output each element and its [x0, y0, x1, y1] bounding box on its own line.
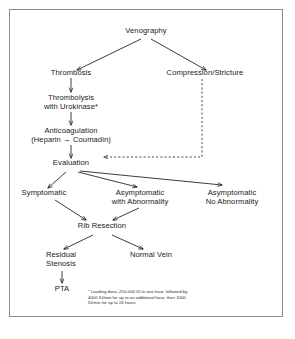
node-compression-stricture: Compression/Stricture	[167, 69, 244, 78]
node-asymptomatic-no-abnormality: Asymptomatic No Abnormality	[206, 189, 259, 206]
node-thrombosis: Thrombosis	[51, 69, 91, 78]
diagram-page: Venography Thrombosis Compression/Strict…	[0, 0, 295, 339]
node-rib-resection: Rib Resection	[78, 222, 126, 231]
diagram-frame	[9, 9, 283, 317]
node-residual-stenosis: Residual Stenosis	[46, 251, 76, 268]
node-thrombolysis: Thrombolysis with Urokinase*	[44, 94, 98, 111]
footnote-urokinase-dosing: * Loading dose–250,000 IU in one hour, f…	[88, 289, 238, 306]
node-normal-vein: Normal Vein	[130, 251, 172, 260]
node-evaluation: Evaluation	[53, 159, 89, 168]
node-pta: PTA	[55, 285, 69, 294]
node-symptomatic: Symptomatic	[22, 189, 67, 198]
node-venography: Venography	[125, 27, 166, 36]
node-anticoagulation: Anticoagulation (Heparin → Coumadin)	[31, 127, 111, 144]
node-asymptomatic-with-abnormality: Asymptomatic with Abnormality	[112, 189, 169, 206]
